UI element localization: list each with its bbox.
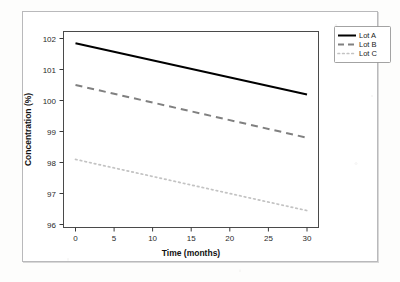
line-chart: 102 101 100 99 98 97 96 0 [0, 0, 400, 282]
series-line-lot-a [76, 43, 308, 94]
y-tick-label-99: 99 [47, 128, 56, 137]
y-axis: 102 101 100 99 98 97 96 [43, 35, 64, 230]
y-axis-title: Concentration (%) [23, 93, 33, 166]
series-line-lot-b [76, 85, 308, 138]
x-axis-title: Time (months) [162, 248, 221, 258]
x-tick-label-15: 15 [187, 234, 196, 243]
y-tick-label-100: 100 [43, 97, 57, 106]
x-tick-label-5: 5 [112, 234, 117, 243]
x-tick-label-20: 20 [225, 234, 234, 243]
x-axis: 0 5 10 15 20 25 30 [73, 228, 312, 244]
legend-label-lot-a: Lot A [359, 31, 376, 40]
x-tick-label-10: 10 [148, 234, 157, 243]
figure-page: 102 101 100 99 98 97 96 0 [0, 0, 400, 282]
y-tick-label-96: 96 [47, 221, 56, 230]
plot-area-border [64, 32, 319, 228]
x-tick-label-25: 25 [264, 234, 273, 243]
legend-label-lot-c: Lot C [359, 49, 378, 58]
y-tick-label-102: 102 [43, 35, 57, 44]
x-tick-label-30: 30 [303, 234, 312, 243]
x-tick-label-0: 0 [73, 234, 78, 243]
y-tick-label-101: 101 [43, 66, 57, 75]
legend-label-lot-b: Lot B [359, 40, 377, 49]
y-tick-label-98: 98 [47, 159, 56, 168]
series-line-lot-c [76, 159, 308, 210]
y-tick-label-97: 97 [47, 190, 56, 199]
chart-legend: Lot A Lot B Lot C [335, 27, 391, 63]
